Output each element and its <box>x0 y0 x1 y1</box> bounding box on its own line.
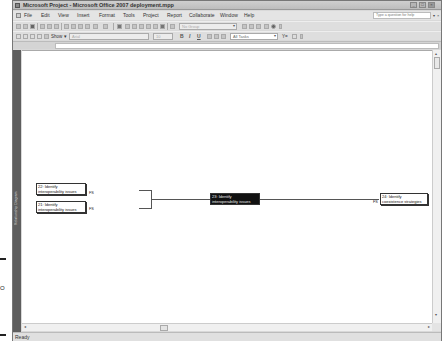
group-by-dropdown[interactable]: No Group ▾ <box>179 23 237 30</box>
menu-edit[interactable]: Edit <box>41 12 50 18</box>
task-node-label-line2: coexistence strategies <box>382 199 426 204</box>
menu-tools[interactable]: Tools <box>123 12 135 18</box>
task-node-21[interactable]: 21: Identify interoperability issues <box>36 201 86 213</box>
scroll-left-icon[interactable]: ◂ <box>24 325 26 329</box>
align-left-icon[interactable] <box>207 34 212 39</box>
menu-format[interactable]: Format <box>99 12 115 18</box>
copy-picture-icon[interactable] <box>264 24 269 29</box>
toolbar-divider <box>113 23 114 30</box>
spelling-icon[interactable] <box>54 24 59 29</box>
link-type-label: FS <box>373 200 378 204</box>
help-dropdown-icon[interactable]: ▾ <box>433 13 435 18</box>
outdent-icon[interactable] <box>16 34 21 39</box>
scroll-up-icon[interactable]: ▴ <box>435 52 437 56</box>
task-notes-icon[interactable] <box>153 24 158 29</box>
unlink-tasks-icon[interactable] <box>132 24 137 29</box>
assign-resources-icon[interactable] <box>160 24 165 29</box>
show-subtasks-icon[interactable] <box>30 34 35 39</box>
toolbar-options-icon[interactable] <box>279 24 282 29</box>
formatting-toolbar: Show ▾ Arial 10 B I U All Tasks ▾ Y= <box>13 31 441 40</box>
paste-icon[interactable] <box>78 24 83 29</box>
toolbar-options-icon[interactable] <box>300 34 303 39</box>
filter-dropdown[interactable]: All Tasks ▾ <box>230 33 278 40</box>
window-title: Microsoft Project - Microsoft Office 200… <box>23 2 174 8</box>
hyperlink-icon[interactable] <box>117 24 122 29</box>
align-right-icon[interactable] <box>221 34 226 39</box>
project-app-icon <box>15 3 20 8</box>
link-tasks-icon[interactable] <box>125 24 130 29</box>
menu-collaborate[interactable]: Collaborate <box>189 12 215 18</box>
scroll-to-task-icon[interactable] <box>256 24 261 29</box>
indent-icon[interactable] <box>23 34 28 39</box>
horizontal-scrollbar[interactable]: ◂ ▸ <box>22 323 432 331</box>
show-dropdown[interactable]: Show ▾ <box>51 34 67 39</box>
close-button[interactable]: × <box>428 2 435 8</box>
status-text: Ready <box>15 334 29 340</box>
entry-bar <box>13 41 441 49</box>
italic-button[interactable]: I <box>189 33 190 39</box>
standard-toolbar: No Group ▾ <box>13 21 441 30</box>
gantt-wizard-icon[interactable] <box>292 34 297 39</box>
chevron-down-icon: ▾ <box>274 34 276 39</box>
copy-icon[interactable] <box>71 24 76 29</box>
font-dropdown[interactable]: Arial <box>69 33 149 40</box>
menu-view[interactable]: View <box>58 12 69 18</box>
view-bar: Relationship Diagram <box>13 50 21 332</box>
undo-icon[interactable] <box>93 24 98 29</box>
cut-icon[interactable] <box>64 24 69 29</box>
connector-line <box>151 199 211 200</box>
align-center-icon[interactable] <box>214 34 219 39</box>
connector-line <box>259 199 379 200</box>
autofilter-button[interactable]: Y= <box>282 34 288 39</box>
relationship-diagram-canvas[interactable]: 22: Identify interoperability issues FS … <box>22 50 432 323</box>
font-size-dropdown[interactable]: 10 <box>153 33 173 40</box>
menu-window[interactable]: Window <box>220 12 238 18</box>
help-icon[interactable] <box>271 24 276 29</box>
view-label: Relationship Diagram <box>14 180 20 225</box>
horizontal-scroll-thumb[interactable] <box>160 325 168 331</box>
task-node-22[interactable]: 22: Identify interoperability issues <box>36 183 86 195</box>
redo-icon[interactable] <box>103 24 108 29</box>
font-value: Arial <box>72 34 80 39</box>
scroll-down-icon[interactable]: ▾ <box>435 313 437 317</box>
menu-report[interactable]: Report <box>167 12 182 18</box>
task-node-23-selected[interactable]: 23: Identify interoperability issues <box>210 193 260 205</box>
task-info-icon[interactable] <box>146 24 151 29</box>
vertical-scroll-thumb[interactable] <box>434 57 440 69</box>
new-icon[interactable] <box>16 24 21 29</box>
split-task-icon[interactable] <box>139 24 144 29</box>
document-close-icon[interactable]: × <box>437 13 439 18</box>
vertical-scrollbar[interactable]: ▴ ▾ <box>432 50 441 323</box>
task-node-24[interactable]: 24: Identify coexistence strategies <box>380 193 428 205</box>
menu-file[interactable]: File <box>24 12 32 18</box>
font-size-value: 10 <box>156 34 160 39</box>
format-painter-icon[interactable] <box>85 24 90 29</box>
underline-button[interactable]: U <box>197 33 201 39</box>
bold-button[interactable]: B <box>180 33 184 39</box>
save-icon[interactable] <box>30 24 35 29</box>
hide-subtasks-icon[interactable] <box>37 34 42 39</box>
zoom-out-icon[interactable] <box>249 24 254 29</box>
publish-icon[interactable] <box>170 24 175 29</box>
menu-project[interactable]: Project <box>143 12 159 18</box>
show-icon[interactable] <box>44 34 49 39</box>
toolbar-divider <box>61 23 62 30</box>
print-icon[interactable] <box>40 24 45 29</box>
restore-button[interactable]: □ <box>419 2 426 8</box>
margin-o-mark: O <box>0 285 5 291</box>
print-preview-icon[interactable] <box>47 24 52 29</box>
task-node-label-line2: interoperability issues <box>38 207 84 212</box>
toolbar-divider <box>37 23 38 30</box>
help-search-input[interactable]: Type a question for help <box>373 12 431 19</box>
margin-mark-top <box>0 258 6 260</box>
task-node-label-line2: interoperability issues <box>212 199 258 204</box>
minimize-button[interactable]: _ <box>410 2 417 8</box>
scroll-right-icon[interactable]: ▸ <box>428 325 430 329</box>
zoom-in-icon[interactable] <box>242 24 247 29</box>
scrollbar-corner <box>432 323 441 331</box>
menu-help[interactable]: Help <box>244 12 254 18</box>
chevron-down-icon: ▾ <box>233 24 235 29</box>
entry-field[interactable] <box>55 43 439 49</box>
menu-insert[interactable]: Insert <box>77 12 90 18</box>
open-icon[interactable] <box>23 24 28 29</box>
